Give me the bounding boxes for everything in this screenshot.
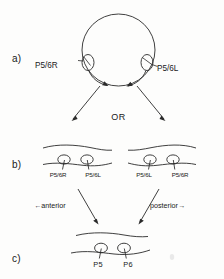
montage-left-label-1: P5/6R xyxy=(50,171,67,178)
panel-c-electrode-p5-stem xyxy=(99,249,101,259)
panel-c: c) P5 P6 xyxy=(12,233,174,269)
converge-arrow-left-shaft xyxy=(78,189,97,222)
posterior-direction-label: posterior→ xyxy=(150,201,185,210)
electrode-p56l-marker xyxy=(141,55,153,71)
arrow-p56r-head xyxy=(102,81,108,86)
panel-b-right-montage: P5/6L P5/6R xyxy=(128,145,196,178)
direction-labels: ←anterior posterior→ xyxy=(34,201,185,210)
panel-c-label: c) xyxy=(12,253,21,264)
branch-arrows: OR xyxy=(72,86,166,122)
panel-c-label-p6: P6 xyxy=(123,260,132,269)
panel-b-left-montage: P5/6R P5/6L xyxy=(43,145,112,178)
scan-artifact-smudge xyxy=(170,254,174,260)
montage-right-label-2: P5/6R xyxy=(172,171,189,178)
branch-arrow-right-shaft xyxy=(137,86,164,119)
montage-left-electrode-2-stem xyxy=(87,160,89,170)
figure-canvas: a) P5/6R P5/6L OR b) xyxy=(0,0,224,279)
anterior-direction-label: ←anterior xyxy=(34,201,66,210)
montage-right-electrode-2-marker xyxy=(167,155,179,164)
panel-c-electrode-p6-marker xyxy=(118,243,131,253)
montage-right-upper-contour xyxy=(128,145,196,150)
panel-c-scalp-line xyxy=(71,250,150,255)
branch-arrow-right-head xyxy=(160,116,166,121)
electrode-label-p56l: P5/6L xyxy=(157,64,179,73)
montage-left-upper-contour xyxy=(43,145,112,150)
montage-right-electrode-2-stem xyxy=(173,160,175,170)
panel-b-label: b) xyxy=(12,159,21,170)
panel-c-electrode-p6-stem xyxy=(124,249,126,259)
electrode-p56l-tick xyxy=(143,58,153,65)
panel-b: b) P5/6R P5/6L P5/6L P5/6R xyxy=(12,145,196,178)
montage-left-scalp-line xyxy=(43,163,112,166)
montage-right-electrode-1-stem xyxy=(149,160,151,170)
panel-c-upper-contour xyxy=(76,233,148,237)
converge-arrow-right-head xyxy=(139,219,144,225)
converge-arrows xyxy=(78,189,159,225)
leader-p56r xyxy=(78,61,83,62)
montage-right-scalp-line xyxy=(128,163,196,166)
electrode-label-p56r: P5/6R xyxy=(35,61,58,70)
montage-left-electrode-1-stem xyxy=(63,160,65,170)
branch-arrow-left-shaft xyxy=(73,86,100,119)
montage-right-label-1: P5/6L xyxy=(136,171,152,178)
panel-a: a) P5/6R P5/6L xyxy=(12,14,179,87)
or-connector-label: OR xyxy=(111,112,126,122)
panel-c-label-p5: P5 xyxy=(93,260,102,269)
panel-a-label: a) xyxy=(12,53,21,64)
montage-left-label-2: P5/6L xyxy=(85,171,101,178)
converge-arrow-left-head xyxy=(93,219,98,225)
montage-left-electrode-2-marker xyxy=(81,155,93,164)
